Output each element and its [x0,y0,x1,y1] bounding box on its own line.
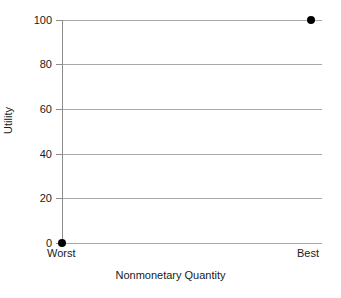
y-tick-label-0: 0 [0,238,52,249]
y-tick-label-80: 80 [0,59,52,70]
y-tick-20 [56,198,62,199]
y-axis-title: Utility [3,91,14,151]
y-tick-60 [56,109,62,110]
gridline-0 [62,243,322,244]
y-tick-40 [56,154,62,155]
gridline-20 [62,198,322,199]
gridline-80 [62,64,322,65]
x-axis-title: Nonmonetary Quantity [0,269,341,281]
gridline-40 [62,154,322,155]
data-point-worst [58,239,66,247]
y-tick-label-40: 40 [0,149,52,160]
y-axis-line [62,20,63,244]
utility-scatter-chart: 100 80 60 40 20 0 Utility Worst Best Non… [0,0,341,298]
x-tick-label-worst: Worst [47,247,76,259]
y-tick-100 [56,20,62,21]
gridline-100 [62,20,322,21]
y-tick-label-20: 20 [0,193,52,204]
x-tick-label-best: Best [297,247,319,259]
y-tick-label-100: 100 [0,15,52,26]
data-point-best [307,16,315,24]
y-tick-80 [56,64,62,65]
gridline-60 [62,109,322,110]
